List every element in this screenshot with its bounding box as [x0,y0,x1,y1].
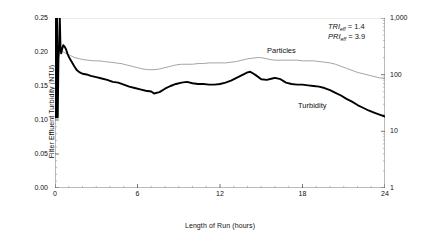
x-axis-ticks: 06121824 [0,190,443,204]
x-axis-tick-label: 18 [288,190,318,197]
y-axis-left-tick-label: 0.25 [22,14,48,21]
plot-svg [55,18,385,188]
index-annotations: TRIeff = 1.4PRIeff = 3.9 [328,22,365,42]
y-axis-right-tick-label: 10 [390,127,420,134]
x-axis-tick-label: 0 [40,190,70,197]
index-annotation-row: PRIeff = 3.9 [328,32,365,42]
chart-container: Filter Effluent Turbidity (NTU) Filter E… [0,0,443,244]
index-annotation-value: 3.9 [355,32,365,41]
x-axis-tick-label: 24 [370,190,400,197]
x-axis-title: Length of Run (hours) [55,222,385,229]
y-axis-right-tick-label: 100 [390,71,420,78]
y-axis-right-tick-label: 1,000 [390,14,420,21]
plot-area [55,18,385,188]
y-axis-left-tick-label: 0.15 [22,82,48,89]
series-label-turbidity: Turbidity [298,101,326,110]
index-annotation-row: TRIeff = 1.4 [328,22,365,32]
index-annotation-value: 1.4 [354,22,364,31]
x-axis-tick-label: 12 [205,190,235,197]
index-annotation-subscript: eff [341,36,347,42]
y-axis-left-tick-label: 0.05 [22,150,48,157]
y-axis-left-tick-label: 0.10 [22,116,48,123]
index-annotation-name: TRI [328,22,340,31]
y-axis-left-ticks: 0.000.050.100.150.200.25 [22,0,48,244]
index-annotation-operator: = [348,22,352,31]
y-axis-left-title: Filter Effluent Turbidity (NTU) [48,37,55,187]
x-axis-tick-label: 6 [123,190,153,197]
index-annotation-subscript: eff [340,26,346,32]
series-label-particles: Particles [267,46,296,55]
y-axis-right-ticks: 1101001,000 [390,0,420,244]
index-annotation-name: PRI [328,32,341,41]
index-annotation-operator: = [348,32,352,41]
y-axis-left-tick-label: 0.20 [22,48,48,55]
